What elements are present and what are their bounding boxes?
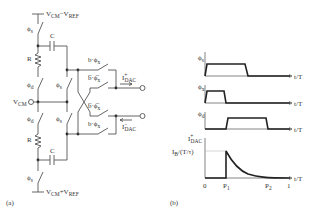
switch-phi-s-mid-bottom — [67, 113, 72, 124]
waveform-idac — [205, 151, 290, 178]
peak-label: IB/(T/τ) — [172, 148, 194, 157]
diagram-canvas: VCM−VREF VCM+VREF VCM R R C C ϕs ϕd ϕs ϕ… — [0, 0, 326, 212]
axis-label-4: t/T — [294, 175, 303, 183]
panel-b-label: (b) — [170, 199, 179, 207]
bottom-supply-label: VCM+VREF — [46, 188, 79, 197]
switch-phi-d-top — [38, 78, 43, 89]
vcm-input-label: VCM — [13, 98, 27, 107]
idac-plus-terminal — [140, 86, 145, 91]
phi-s-label-2: ϕs — [56, 81, 62, 90]
axis-label-3: t/T — [294, 126, 303, 134]
waveform-phi-d — [205, 118, 290, 129]
phi-s-label-1: ϕs — [27, 25, 33, 34]
labels: VCM−VREF VCM+VREF VCM R R C C ϕs ϕd ϕs ϕ… — [6, 10, 303, 207]
idac-minus-terminal — [140, 114, 145, 119]
waveform-label-phi-s: ϕs — [198, 54, 204, 63]
tick-p1: P1 — [223, 182, 230, 191]
resistor-top — [35, 46, 41, 77]
resistor-bottom — [35, 131, 41, 160]
idac-waveform-label: I+DAC — [188, 133, 202, 144]
switch-label-bbar-phi-2: b̅·ϕ̅x — [88, 102, 101, 111]
phi-s-label-3: ϕs — [56, 115, 62, 124]
axis-label-1: t/T — [294, 73, 303, 81]
capacitor-top-label: C — [50, 32, 55, 40]
tick-1: 1 — [287, 182, 291, 190]
phi-s-label-4: ϕs — [27, 174, 33, 183]
waveform-label-phi-d: ϕd — [198, 110, 205, 119]
circuit-panel-a — [29, 14, 146, 192]
switch-label-bbar-phi-1: b̅·ϕ̅x — [88, 74, 101, 83]
top-supply-label: VCM−VREF — [46, 10, 79, 19]
vcm-input-terminal — [29, 100, 34, 105]
axis-label-2: t/T — [294, 100, 303, 108]
waveform-phi-s — [205, 64, 290, 76]
idac-minus-label: I−DAC — [122, 121, 136, 132]
waveform-label-phi-x: ϕx — [198, 83, 205, 92]
switch-phi-s-mid-top — [67, 78, 72, 89]
switch-label-b-phi-1: b·ϕx — [88, 56, 101, 65]
resistor-top-label: R — [27, 55, 32, 63]
waveform-phi-x — [205, 91, 290, 103]
switch-phi-s-bottom — [38, 172, 43, 183]
switch-label-b-phi-2: b·ϕx — [88, 120, 101, 129]
switch-phi-d-bottom — [38, 113, 43, 124]
tick-p2: P2 — [265, 182, 272, 191]
phi-d-label-2: ϕd — [27, 115, 34, 124]
resistor-bottom-label: R — [27, 136, 32, 144]
idac-plus-label: I+DAC — [122, 72, 136, 83]
panel-a-label: (a) — [6, 199, 14, 207]
phi-d-label-1: ϕd — [27, 81, 34, 90]
waveform-panel-b — [205, 52, 292, 180]
switch-phi-s-top — [38, 22, 43, 34]
tick-0: 0 — [203, 182, 207, 190]
capacitor-bottom-label: C — [50, 147, 55, 155]
